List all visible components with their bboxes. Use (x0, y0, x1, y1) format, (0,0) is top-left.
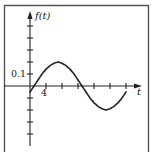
y-axis-arrow-icon (27, 11, 32, 19)
function-plot: f(t) t 0.1 4 (0, 0, 152, 152)
x-axis-label: t (137, 86, 142, 97)
axis-ticks (27, 26, 126, 134)
chart-figure: f(t) t 0.1 4 (0, 0, 152, 152)
x-tick-label: 4 (41, 87, 47, 98)
y-axis-label: f(t) (34, 10, 51, 21)
y-tick-label: 0.1 (11, 68, 26, 79)
